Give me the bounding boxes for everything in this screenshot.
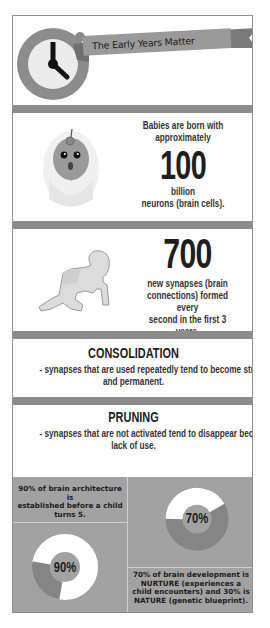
neurons-stat: Babies are born with approximately 100 b… bbox=[118, 119, 248, 209]
architecture-percent: 90% bbox=[50, 558, 80, 575]
header: The Early Years Matter bbox=[13, 16, 252, 104]
architecture-caption-line-1: 90% of brain architecture is bbox=[15, 485, 125, 502]
consolidation-line-1: - synapses that are used repeatedly tend… bbox=[40, 363, 228, 375]
separator bbox=[13, 221, 252, 229]
synapses-line-2: connections) formed every bbox=[139, 289, 237, 313]
neurons-desc: neurons (brain cells). bbox=[132, 197, 233, 209]
consolidation-line-2: and permanent. bbox=[40, 375, 228, 387]
synapses-line-1: new synapses (brain bbox=[139, 277, 237, 289]
pruning-block: PRUNING - synapses that are not activate… bbox=[13, 409, 253, 451]
divider bbox=[13, 522, 127, 523]
crawling-baby-icon bbox=[37, 249, 117, 315]
neurons-section: Babies are born with approximately 100 b… bbox=[13, 113, 252, 221]
infographic: The Early Years Matter Babies are born w… bbox=[12, 15, 253, 613]
divider bbox=[127, 477, 128, 613]
baby-face-icon bbox=[39, 119, 103, 211]
pruning-line-2: lack of use. bbox=[40, 439, 228, 451]
separator bbox=[13, 331, 252, 339]
synapses-section: 700 new synapses (brain connections) for… bbox=[13, 229, 252, 331]
separator bbox=[13, 397, 252, 405]
consolidation-section: CONSOLIDATION - synapses that are used r… bbox=[13, 339, 252, 397]
neurons-intro: Babies are born with bbox=[132, 119, 233, 131]
separator bbox=[13, 105, 252, 113]
pruning-section: PRUNING - synapses that are not activate… bbox=[13, 405, 252, 477]
development-caption-line-4: NATURE (genetic blueprint). bbox=[129, 597, 253, 606]
synapses-stat: 700 new synapses (brain connections) for… bbox=[125, 233, 250, 337]
development-percent: 70% bbox=[182, 509, 212, 526]
stopwatch-icon bbox=[15, 20, 99, 104]
neurons-intro-2: approximately bbox=[132, 131, 233, 143]
neurons-unit: billion bbox=[132, 185, 233, 197]
architecture-caption: 90% of brain architecture is established… bbox=[15, 485, 125, 519]
consolidation-title: CONSOLIDATION bbox=[40, 345, 228, 361]
pruning-title: PRUNING bbox=[40, 409, 228, 425]
architecture-caption-line-3: turns 5. bbox=[15, 511, 125, 520]
title-banner: The Early Years Matter bbox=[83, 28, 232, 56]
stats-panel: 90% of brain architecture is established… bbox=[13, 477, 252, 613]
divider bbox=[128, 567, 253, 568]
page-title: The Early Years Matter bbox=[92, 35, 195, 51]
synapses-number: 700 bbox=[143, 233, 233, 275]
development-caption: 70% of brain development is NURTURE (exp… bbox=[129, 571, 253, 605]
pruning-line-1: - synapses that are not activated tend t… bbox=[40, 427, 228, 439]
consolidation-block: CONSOLIDATION - synapses that are used r… bbox=[13, 345, 253, 387]
neurons-number: 100 bbox=[136, 145, 230, 185]
